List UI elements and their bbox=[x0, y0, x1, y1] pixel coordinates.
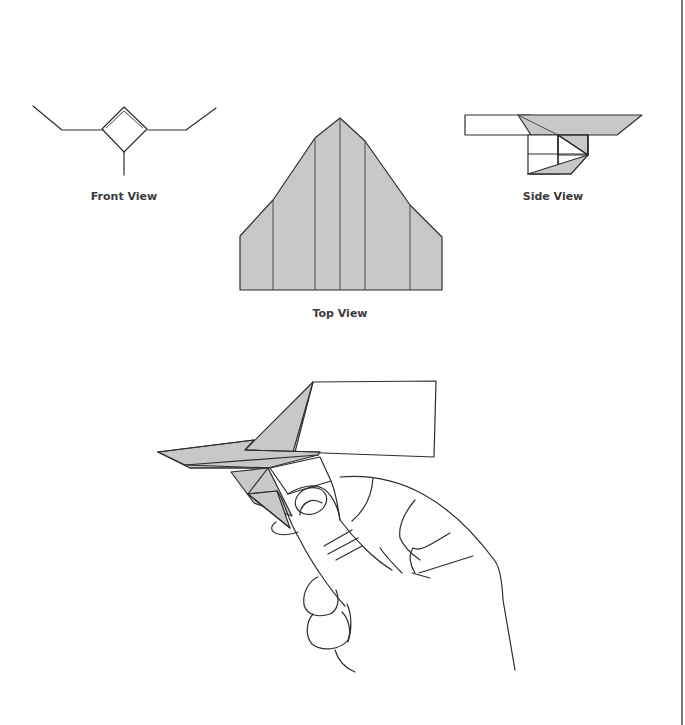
front-view-drawing bbox=[33, 106, 216, 175]
diagram-illustration bbox=[0, 0, 685, 725]
side-view-drawing bbox=[465, 115, 642, 174]
diagram-page: Front View Top View Side View bbox=[0, 0, 685, 725]
hand-holding-plane-drawing bbox=[158, 381, 515, 672]
side-view-label: Side View bbox=[523, 190, 584, 203]
top-view-label: Top View bbox=[312, 307, 367, 320]
page-margin-rule bbox=[681, 0, 683, 725]
top-view-drawing bbox=[240, 118, 442, 290]
front-view-label: Front View bbox=[91, 190, 157, 203]
